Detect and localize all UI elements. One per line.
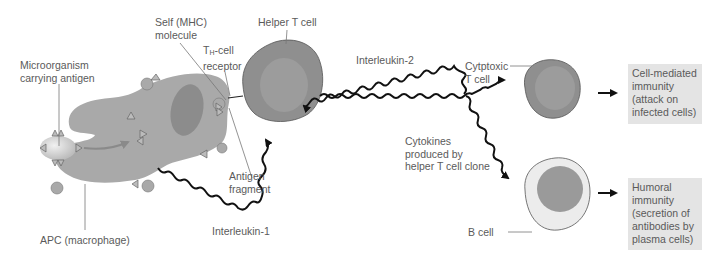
label-antigen-line2: fragment bbox=[229, 183, 270, 196]
label-antigen-fragment: Antigen fragment bbox=[229, 170, 270, 195]
th-suffix: -cell bbox=[214, 44, 233, 56]
label-self-mhc-line1: Self (MHC) bbox=[155, 16, 207, 29]
cell-mediated-line3: (attack on bbox=[632, 93, 698, 106]
receptor-stalk bbox=[228, 96, 243, 98]
humoral-line5: plasma cells) bbox=[632, 233, 698, 246]
apc-macrophage bbox=[51, 74, 229, 194]
label-self-mhc-line2: molecule bbox=[155, 29, 207, 42]
humoral-line3: (secretion of bbox=[632, 207, 698, 220]
label-self-mhc: Self (MHC) molecule bbox=[155, 16, 207, 41]
label-cytotoxic-line1: Cytptoxic bbox=[465, 60, 508, 73]
outcome-humoral: Humoral immunity (secretion of antibodie… bbox=[628, 178, 702, 250]
label-helper-t-cell: Helper T cell bbox=[258, 16, 317, 29]
label-apc: APC (macrophage) bbox=[40, 234, 130, 247]
outcome-cell-mediated: Cell-mediated immunity (attack on infect… bbox=[628, 64, 702, 124]
label-th-cell-receptor: TH-cell receptor bbox=[203, 44, 242, 72]
label-cytokines-line2: produced by bbox=[405, 148, 490, 161]
diagram-canvas bbox=[0, 0, 726, 264]
label-microorganism-line2: carrying antigen bbox=[20, 72, 95, 85]
helper-t-cell bbox=[228, 40, 323, 121]
humoral-line4: antibodies by bbox=[632, 220, 698, 233]
cytotoxic-t-cell bbox=[524, 60, 580, 119]
b-cell bbox=[525, 158, 590, 230]
label-cytokines-line3: helper T cell clone bbox=[405, 160, 490, 173]
humoral-line1: Humoral bbox=[632, 181, 698, 194]
label-b-cell: B cell bbox=[468, 226, 494, 239]
humoral-line2: immunity bbox=[632, 194, 698, 207]
label-interleukin-2: Interleukin-2 bbox=[356, 54, 414, 67]
label-th-line2: receptor bbox=[203, 60, 242, 73]
label-th-line1: TH-cell bbox=[203, 44, 242, 60]
label-cytotoxic-line2: T cell bbox=[465, 73, 508, 86]
label-microorganism: Microorganism carrying antigen bbox=[20, 59, 95, 84]
label-microorganism-line1: Microorganism bbox=[20, 59, 95, 72]
cell-mediated-line2: immunity bbox=[632, 80, 698, 93]
interleukin-2-signal bbox=[304, 66, 466, 107]
label-antigen-line1: Antigen bbox=[229, 170, 270, 183]
cell-mediated-line4: infected cells) bbox=[632, 106, 698, 119]
label-interleukin-1: Interleukin-1 bbox=[212, 225, 270, 238]
cell-mediated-line1: Cell-mediated bbox=[632, 67, 698, 80]
label-cytotoxic-t-cell: Cytptoxic T cell bbox=[465, 60, 508, 85]
label-cytokines: Cytokines produced by helper T cell clon… bbox=[405, 135, 490, 173]
label-cytokines-line1: Cytokines bbox=[405, 135, 490, 148]
